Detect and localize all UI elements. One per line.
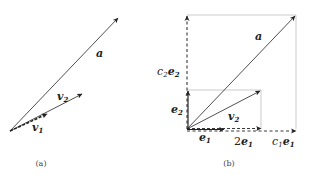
label-e2: e2 [171,103,183,117]
label-a: a [255,30,262,43]
label-2e1: 2e1 [234,135,253,149]
vector-diagram: a v2 v1 (a) a v2 e1 e2 2e1 c1e1 c2e2 (b) [0,0,309,182]
vector-a [187,16,295,129]
label-c1e1: c1e1 [272,135,295,149]
label-v2: v2 [57,90,68,104]
vector-v2 [10,94,82,131]
label-c2e2: c2e2 [157,65,180,79]
caption-b: (b) [223,159,234,168]
caption-a: (a) [35,159,46,168]
label-v1: v1 [32,121,43,135]
vector-v2 [187,91,260,129]
panel-b: a v2 e1 e2 2e1 c1e1 c2e2 (b) [157,15,296,168]
panel-a: a v2 v1 (a) [10,18,118,168]
vector-a [10,18,118,131]
label-v2: v2 [228,110,239,124]
label-a: a [96,47,103,60]
label-e1: e1 [199,131,211,145]
